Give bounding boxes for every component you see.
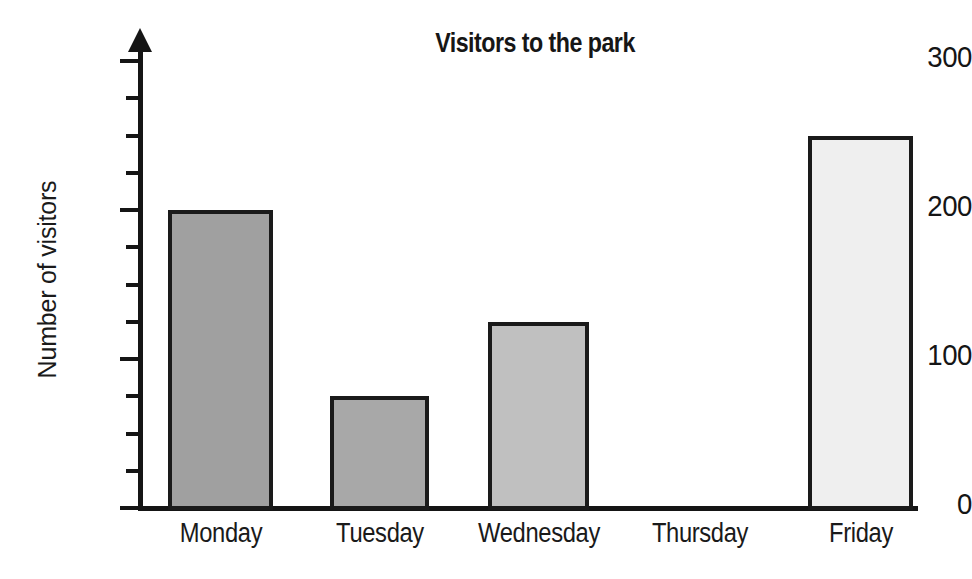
y-axis-minor-tick — [126, 283, 139, 287]
x-axis-label-friday: Friday — [764, 518, 958, 549]
y-axis-major-tick — [120, 208, 139, 212]
y-axis-minor-tick — [126, 469, 139, 473]
y-axis-title: Number of visitors — [33, 160, 62, 400]
y-axis-major-tick — [120, 357, 139, 361]
bar-chart-figure: Visitors to the park Number of visitors … — [0, 0, 972, 579]
y-axis-major-tick — [120, 506, 139, 510]
y-axis-minor-tick — [126, 432, 139, 436]
y-axis-minor-tick — [126, 96, 139, 100]
chart-title: Visitors to the park — [359, 28, 712, 59]
bar-tuesday — [330, 396, 429, 510]
y-axis-minor-tick — [126, 245, 139, 249]
bar-friday — [808, 136, 913, 511]
y-axis-arrow-icon — [128, 28, 152, 52]
y-axis-line — [138, 47, 143, 510]
y-axis-minor-tick — [126, 320, 139, 324]
bar-wednesday — [488, 322, 589, 510]
y-axis-minor-tick — [126, 171, 139, 175]
y-axis-tick-label: 300 — [862, 40, 972, 74]
bar-monday — [168, 210, 273, 510]
y-axis-minor-tick — [126, 394, 139, 398]
y-axis-major-tick — [120, 59, 139, 63]
y-axis-minor-tick — [126, 134, 139, 138]
